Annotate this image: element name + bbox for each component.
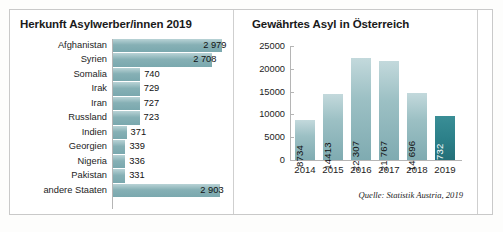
left-chart-bar-track: 723 — [113, 111, 233, 124]
right-chart-plot-area: 87341441322 30721 76714 6969 732 0500010… — [244, 42, 472, 177]
right-chart-x-tick-label: 2014 — [294, 164, 315, 175]
left-chart-category-label: Georgien — [10, 140, 107, 153]
right-chart-y-tick-label: 25000 — [259, 41, 285, 51]
left-chart-category-label: Irak — [10, 82, 107, 95]
left-chart-panel: Herkunft Asylwerber/innen 2019 Afghanist… — [10, 10, 233, 214]
left-chart-bar-row: Pakistan331 — [10, 169, 233, 182]
right-chart-panel: Gewährtes Asyl in Österreich 87341441322… — [234, 10, 477, 214]
left-chart-bar — [113, 140, 125, 153]
left-chart-bar-row: Nigeria336 — [10, 155, 233, 168]
left-chart-value-label: 371 — [131, 126, 147, 139]
left-chart-bar — [113, 155, 125, 168]
left-chart-value-label: 729 — [144, 82, 160, 95]
source-note: Quelle: Statistik Austria, 2019 — [359, 190, 463, 200]
left-chart-bar — [113, 169, 125, 182]
left-chart-bar-track: 331 — [113, 169, 233, 182]
right-chart-bar: 21 767 — [379, 61, 399, 160]
left-chart-category-label: Syrien — [10, 53, 107, 66]
right-chart-y-tick-label: 0 — [280, 155, 285, 165]
right-chart-bar: 14 696 — [407, 93, 427, 160]
left-chart-category-label: Russland — [10, 111, 107, 124]
right-chart-y-tick-mark — [290, 114, 294, 115]
right-chart-title: Gewährtes Asyl in Österreich — [252, 18, 409, 30]
left-chart-value-label: 336 — [129, 155, 145, 168]
right-chart-y-tick-mark — [290, 137, 294, 138]
right-chart-x-tick-label: 2017 — [378, 164, 399, 175]
right-chart-x-tick-label: 2015 — [322, 164, 343, 175]
left-chart-category-label: Somalia — [10, 68, 107, 81]
left-chart-bar — [113, 111, 140, 124]
right-chart-y-tick-mark — [290, 92, 294, 93]
right-chart-x-tick-label: 2019 — [434, 164, 455, 175]
right-chart-y-tick-label: 20000 — [259, 64, 285, 74]
left-chart-bar-row: Iran727 — [10, 97, 233, 110]
left-chart-value-label: 740 — [144, 68, 160, 81]
left-chart-bar-track: 2 979 — [113, 39, 233, 52]
right-chart-x-tick-label: 2018 — [406, 164, 427, 175]
left-chart-bar-track: 2 708 — [113, 53, 233, 66]
right-chart-y-tick-label: 5000 — [264, 132, 285, 142]
left-chart-bar-row: Russland723 — [10, 111, 233, 124]
right-chart-bar: 9 732 — [435, 116, 455, 160]
left-chart-bar-row: Irak729 — [10, 82, 233, 95]
right-chart-x-tick-label: 2016 — [350, 164, 371, 175]
left-chart-value-label: 2 903 — [200, 184, 223, 197]
right-chart-y-tick-label: 10000 — [259, 109, 285, 119]
left-chart-bar — [113, 68, 140, 81]
left-chart-category-label: Afghanistan — [10, 39, 107, 52]
right-chart-y-tick-mark — [290, 69, 294, 70]
right-chart-bar: 14413 — [323, 94, 343, 160]
left-chart-bar-row: Indien371 — [10, 126, 233, 139]
left-chart-bar-row: Afghanistan2 979 — [10, 39, 233, 52]
left-chart-value-label: 2 979 — [203, 39, 226, 52]
left-chart-bar — [113, 126, 127, 139]
left-chart-bar-row: Somalia740 — [10, 68, 233, 81]
left-chart-category-label: Pakistan — [10, 169, 107, 182]
panel-divider-right — [477, 10, 478, 214]
left-chart-bar — [113, 97, 140, 110]
left-chart-category-label: andere Staaten — [10, 184, 107, 197]
left-chart-bar-track: 371 — [113, 126, 233, 139]
left-chart-value-label: 727 — [144, 97, 160, 110]
left-chart-bar-row: Georgien339 — [10, 140, 233, 153]
right-chart-y-tick-mark — [290, 46, 294, 47]
left-chart-bar-track: 336 — [113, 155, 233, 168]
left-chart-bar-track: 2 903 — [113, 184, 233, 197]
left-chart-value-label: 723 — [144, 111, 160, 124]
right-chart-y-tick-label: 15000 — [259, 87, 285, 97]
left-chart-value-label: 331 — [129, 169, 145, 182]
left-chart-bar-row: Syrien2 708 — [10, 53, 233, 66]
left-chart-value-label: 339 — [129, 140, 145, 153]
left-chart-category-label: Indien — [10, 126, 107, 139]
left-chart-category-label: Nigeria — [10, 155, 107, 168]
right-chart-y-tick-mark — [290, 160, 294, 161]
right-chart-bar: 8734 — [295, 120, 315, 160]
right-chart-bars-area: 87341441322 30721 76714 6969 732 — [291, 46, 459, 160]
left-chart-bar-track: 339 — [113, 140, 233, 153]
left-chart-plot-area: Afghanistan2 979Syrien2 708Somalia740Ira… — [10, 39, 233, 207]
right-chart-bar: 22 307 — [351, 58, 371, 160]
left-chart-bar-track: 740 — [113, 68, 233, 81]
left-chart-bar-track: 729 — [113, 82, 233, 95]
left-chart-title: Herkunft Asylwerber/innen 2019 — [20, 18, 192, 30]
left-chart-bar — [113, 82, 140, 95]
left-chart-value-label: 2 708 — [193, 53, 216, 66]
left-chart-category-label: Iran — [10, 97, 107, 110]
figure-page: Herkunft Asylwerber/innen 2019 Afghanist… — [0, 0, 503, 232]
left-chart-bar-row: andere Staaten2 903 — [10, 184, 233, 197]
left-chart-bar-track: 727 — [113, 97, 233, 110]
